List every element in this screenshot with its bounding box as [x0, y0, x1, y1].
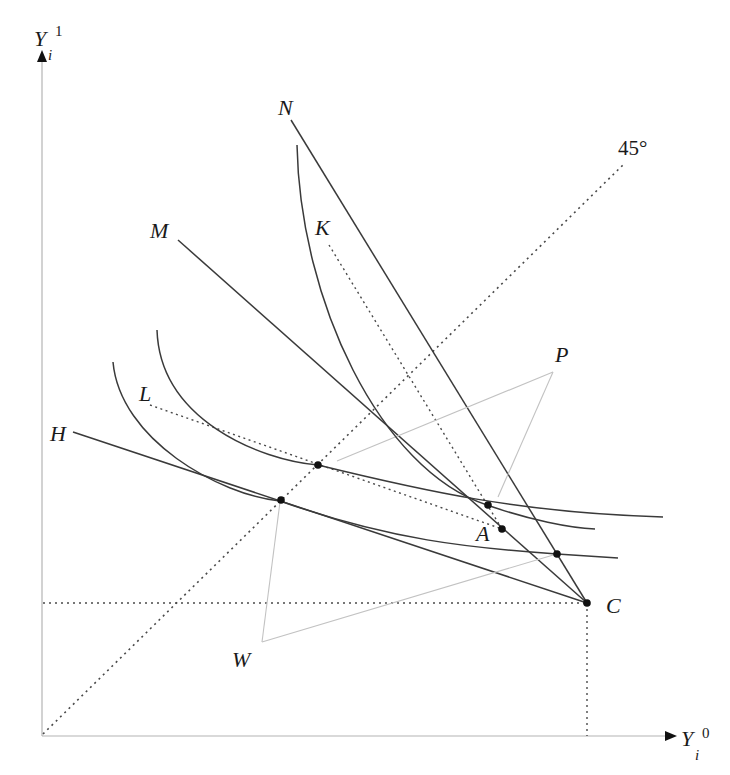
label-l: L: [138, 381, 151, 406]
label-c: C: [606, 593, 621, 618]
label-m: M: [149, 218, 170, 243]
point-n-tangent: [553, 550, 561, 558]
x-axis-subscript: i: [695, 747, 699, 763]
45-degree-label: 45°: [618, 136, 647, 160]
label-w: W: [232, 647, 252, 672]
point-k-tangent: [484, 501, 492, 509]
line-m-c: [178, 240, 587, 603]
y-axis-subscript: i: [48, 47, 52, 63]
point-c: [583, 599, 591, 607]
line-w-right: [262, 553, 560, 642]
label-h: H: [49, 421, 67, 446]
point-a: [498, 525, 506, 533]
label-a: A: [474, 521, 490, 546]
y-axis-superscript: 1: [55, 23, 63, 39]
point-upper-45: [314, 461, 322, 469]
label-k: K: [314, 215, 331, 240]
point-lower-45: [277, 496, 285, 504]
points: [277, 461, 591, 607]
diagram-canvas: Y 1 i Y 0 i 45° N M K L H P A C W: [0, 0, 730, 775]
line-w-up: [262, 502, 280, 642]
x-axis-arrow-icon: [665, 731, 677, 741]
label-p: P: [554, 342, 568, 367]
y-axis-arrow-icon: [37, 50, 47, 62]
line-p-left: [337, 372, 553, 461]
x-axis-label: Y: [681, 726, 696, 751]
x-axis-superscript: 0: [702, 725, 710, 741]
label-n: N: [277, 95, 294, 120]
line-n-c: [291, 120, 587, 603]
axes: [37, 50, 677, 741]
line-k-a: [329, 245, 502, 529]
y-axis-label: Y: [34, 26, 49, 51]
45-degree-line: [43, 163, 625, 734]
